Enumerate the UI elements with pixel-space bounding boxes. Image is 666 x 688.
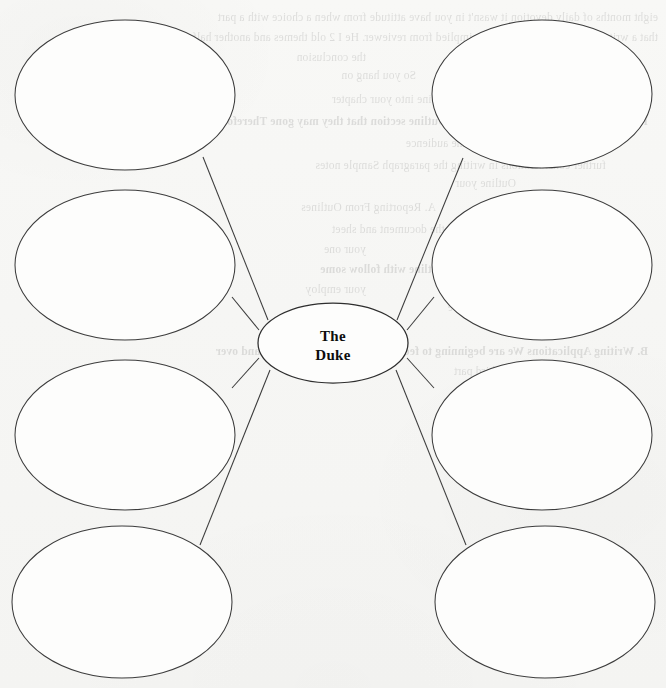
center-node[interactable]: The Duke bbox=[258, 303, 408, 383]
branch-top-right[interactable] bbox=[432, 20, 652, 168]
branch-bottom-left[interactable] bbox=[12, 526, 232, 678]
branch-upper-left[interactable] bbox=[15, 190, 235, 340]
center-node-label-line-2: Duke bbox=[315, 347, 350, 363]
branch-bottom-left-ellipse[interactable] bbox=[12, 526, 232, 678]
branch-top-right-ellipse[interactable] bbox=[432, 20, 652, 168]
connector-branch-lower-left bbox=[232, 358, 259, 388]
branch-lower-left[interactable] bbox=[15, 360, 235, 510]
center-node-label-line-1: The bbox=[320, 328, 346, 344]
worksheet-page: eight months of daily devotion it wasn't… bbox=[0, 0, 666, 688]
branch-upper-right[interactable] bbox=[432, 190, 652, 340]
branch-lower-right-ellipse[interactable] bbox=[432, 360, 652, 510]
branch-bottom-right[interactable] bbox=[435, 526, 655, 678]
branch-top-left-ellipse[interactable] bbox=[15, 20, 235, 170]
branch-top-left[interactable] bbox=[15, 20, 235, 170]
spider-map-diagram: The Duke bbox=[0, 0, 666, 688]
connector-branch-lower-right bbox=[407, 358, 434, 388]
branch-upper-left-ellipse[interactable] bbox=[15, 190, 235, 340]
branch-bottom-right-ellipse[interactable] bbox=[435, 526, 655, 678]
branch-lower-left-ellipse[interactable] bbox=[15, 360, 235, 510]
branch-upper-right-ellipse[interactable] bbox=[432, 190, 652, 340]
branch-lower-right[interactable] bbox=[432, 360, 652, 510]
connector-branch-upper-right bbox=[407, 297, 434, 330]
connector-branch-upper-left bbox=[232, 297, 259, 330]
